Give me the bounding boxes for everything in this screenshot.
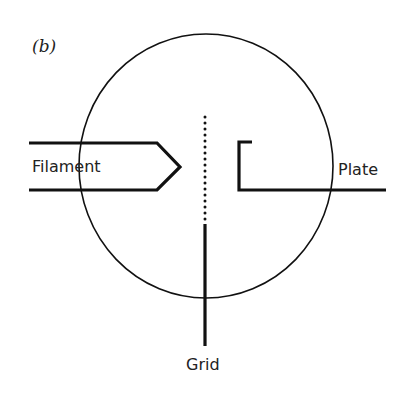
panel-label: (b) [32, 36, 56, 56]
triode-diagram [0, 0, 407, 398]
filament-label: Filament [32, 157, 101, 176]
grid-dotted-line [204, 116, 207, 221]
grid-label: Grid [186, 355, 220, 374]
plate-label: Plate [338, 160, 378, 179]
